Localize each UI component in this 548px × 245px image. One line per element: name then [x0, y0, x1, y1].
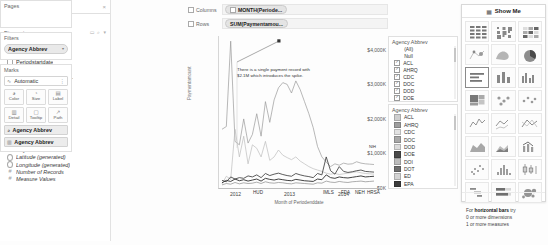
- show-me-header[interactable]: ▦ Show Me: [462, 5, 545, 18]
- legend-item[interactable]: DOI: [389, 158, 457, 165]
- plus-box-icon[interactable]: [230, 7, 236, 13]
- show-me-grid: [462, 18, 545, 206]
- checkbox-icon[interactable]: ✓: [394, 88, 400, 94]
- dual-combination-icon: [520, 139, 539, 154]
- rows-shelf-dropzone[interactable]: SUM(Paymentamou...: [222, 18, 388, 29]
- legend-item[interactable]: DOE: [389, 151, 457, 158]
- color-legend-scrollbar[interactable]: [454, 114, 457, 185]
- marks-pill-detail-agency-abbrev[interactable]: ▥ Agency Abbrev: [4, 137, 68, 147]
- legend-item[interactable]: DOD: [389, 143, 457, 150]
- line-series-imls: [222, 129, 374, 184]
- close-icon[interactable]: ×: [102, 4, 106, 10]
- field-item[interactable]: #Number of Records: [0, 168, 110, 175]
- show-me-stacked-bars[interactable]: [491, 67, 515, 88]
- checkbox-icon[interactable]: ✓: [394, 60, 400, 66]
- x-axis-title: Month of Periodenddate: [218, 200, 380, 205]
- checkbox-icon[interactable]: ✓: [394, 95, 400, 101]
- filter-item[interactable]: Null: [389, 52, 457, 59]
- filter-item-label: ACL: [403, 60, 413, 66]
- show-me-circle-views[interactable]: [491, 90, 515, 111]
- chevron-down-icon[interactable]: ▾: [103, 29, 106, 36]
- filter-item[interactable]: ✓CDC: [389, 73, 457, 80]
- search-icon[interactable]: ⌕: [97, 29, 100, 36]
- marks-card-title: Marks: [1, 65, 71, 74]
- filter-item[interactable]: ✓DOD: [389, 87, 457, 94]
- marks-pill-color-agency-abbrev[interactable]: ◕ Agency Abbrev: [4, 125, 68, 135]
- legend-item-label: DOT: [404, 166, 415, 172]
- rows-shelf[interactable]: Rows SUM(Paymentamou...: [188, 18, 388, 29]
- checkbox-icon[interactable]: ✓: [394, 81, 400, 87]
- show-me-box-and-whisker[interactable]: [518, 159, 542, 180]
- show-me-dual-combination[interactable]: [518, 136, 542, 157]
- marks-color-button[interactable]: ◕ Color: [4, 89, 24, 105]
- legend-item[interactable]: CDC: [389, 129, 457, 136]
- filter-pill-agency-abbrev[interactable]: Agency Abbrev ▾: [4, 44, 68, 54]
- show-me-filled-map[interactable]: [491, 44, 515, 65]
- show-me-hint-bold: horizontal bars: [475, 208, 509, 213]
- legend-item[interactable]: DOC: [389, 136, 457, 143]
- columns-shelf-dropzone[interactable]: MONTH(Periode...: [222, 4, 388, 15]
- plot-area[interactable]: There is a single payment record with $2…: [218, 36, 381, 189]
- legend-item-label: ACL: [404, 114, 414, 120]
- marks-label-label: Label: [53, 97, 64, 101]
- checkbox-icon[interactable]: ✓: [394, 74, 400, 80]
- show-me-dual-lines[interactable]: [518, 113, 542, 134]
- show-me-area-charts-continuous[interactable]: [465, 136, 489, 157]
- marks-path-label: Path: [54, 116, 63, 120]
- show-me-symbol-map[interactable]: [465, 44, 489, 65]
- show-me-continuous-lines[interactable]: [465, 113, 489, 134]
- field-item[interactable]: Latitude (generated): [0, 154, 110, 161]
- rows-icon: [188, 21, 194, 27]
- show-me-discrete-lines[interactable]: [491, 113, 515, 134]
- filter-item[interactable]: (All): [389, 46, 457, 53]
- overflow-menu-icon[interactable]: ⋮: [60, 78, 65, 84]
- filter-item[interactable]: ✓DOC: [389, 80, 457, 87]
- filter-card-scrollbar[interactable]: [454, 46, 457, 99]
- show-me-side-by-side-circles[interactable]: [518, 90, 542, 111]
- show-me-text-table[interactable]: [465, 21, 489, 42]
- show-me-area-charts-discrete[interactable]: [491, 136, 515, 157]
- legend-item[interactable]: ED: [389, 173, 457, 180]
- show-me-hint-line2: 0 or more dimensions: [466, 215, 541, 222]
- filter-item-label: Null: [404, 53, 413, 59]
- show-me-panel: ▦ Show Me For horizontal bars try 0 or m…: [461, 4, 546, 202]
- filters-card-body[interactable]: Agency Abbrev ▾: [1, 42, 71, 56]
- columns-pill-month-periodenddate[interactable]: MONTH(Periode...: [225, 5, 287, 15]
- field-item[interactable]: #Measure Values: [0, 175, 110, 182]
- marks-path-button[interactable]: ↗ Path: [48, 107, 68, 123]
- pages-card-body[interactable]: [1, 10, 71, 24]
- show-me-footer: [462, 192, 545, 201]
- marks-detail-button[interactable]: ▥ Detail: [4, 107, 24, 123]
- rows-pill-sum-paymentamount[interactable]: SUM(Paymentamou...: [225, 19, 288, 29]
- legend-item[interactable]: AHRQ: [389, 121, 457, 128]
- group-icon[interactable]: ▭: [90, 29, 95, 36]
- filter-card-scroll-thumb[interactable]: [454, 48, 457, 62]
- show-me-highlight-table[interactable]: [518, 21, 542, 42]
- checkbox-icon[interactable]: ✓: [394, 67, 400, 73]
- filter-item[interactable]: ✓DOE: [389, 94, 457, 101]
- show-me-horizontal-bars[interactable]: [465, 67, 489, 88]
- field-label: Latitude (generated): [16, 154, 66, 160]
- stacked-bars-icon: [494, 70, 513, 85]
- legend-item[interactable]: DOT: [389, 165, 457, 172]
- mark-type-selector[interactable]: ∿ Automatic ⋮: [4, 76, 68, 86]
- show-me-treemap[interactable]: [465, 90, 489, 111]
- dimensions-tools[interactable]: ▭ ⌕ ▾: [90, 29, 106, 36]
- show-me-pie-chart[interactable]: [518, 44, 542, 65]
- show-me-scatter-plot[interactable]: [465, 159, 489, 180]
- show-me-histogram[interactable]: [491, 159, 515, 180]
- columns-shelf[interactable]: Columns MONTH(Periode...: [188, 4, 388, 15]
- field-item[interactable]: Longitude (generated): [0, 161, 110, 168]
- marks-size-button[interactable]: ◔ Size: [26, 89, 46, 105]
- show-me-heat-map[interactable]: [491, 21, 515, 42]
- color-legend-scroll-thumb[interactable]: [454, 116, 457, 130]
- filter-item[interactable]: ✓ACL: [389, 59, 457, 66]
- legend-item[interactable]: EPA: [389, 180, 457, 187]
- chevron-down-icon[interactable]: ▾: [62, 46, 64, 51]
- show-me-side-by-side-bars[interactable]: [518, 67, 542, 88]
- filter-item[interactable]: ✓AHRQ: [389, 66, 457, 73]
- marks-label-button[interactable]: ▤ Label: [48, 89, 68, 105]
- marks-tooltip-button[interactable]: ▢ Tooltip: [26, 107, 46, 123]
- legend-item[interactable]: ACL: [389, 114, 457, 121]
- color-legend-title: Agency Abbrev: [389, 105, 457, 114]
